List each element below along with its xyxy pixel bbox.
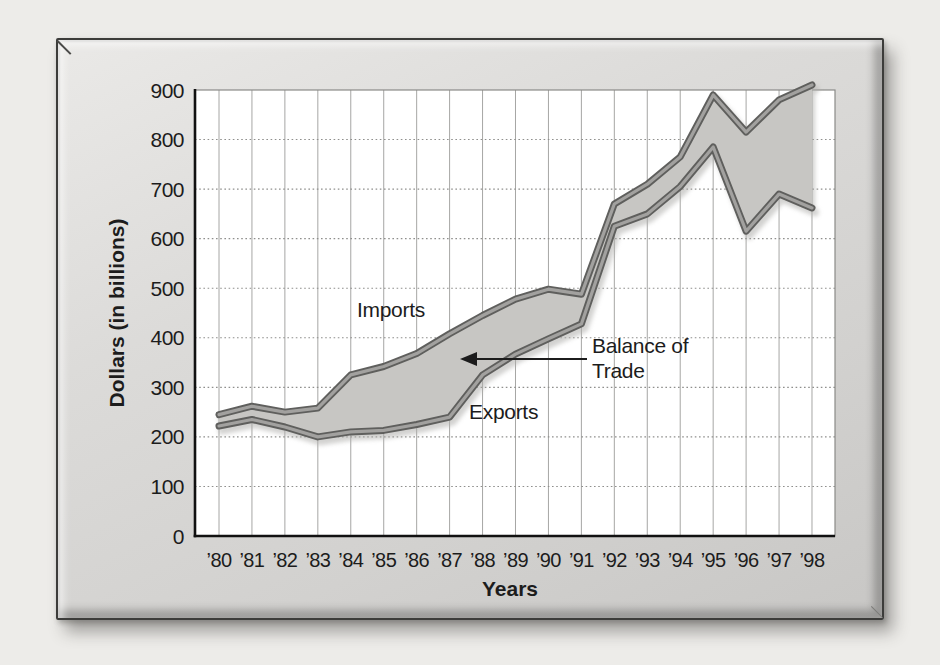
- x-tick-label: ’82: [272, 549, 297, 571]
- x-tick-label: ’83: [305, 549, 330, 571]
- exports-series-label: Exports: [469, 400, 538, 423]
- x-axis-title: Years: [482, 577, 538, 600]
- trade-balance-chart: 0100200300400500600700800900 ’80’81’82’8…: [58, 40, 886, 622]
- y-tick-label: 200: [150, 425, 184, 448]
- y-tick-label: 400: [150, 326, 184, 349]
- x-tick-label: ’91: [569, 549, 594, 571]
- balance-of-trade-label-line1: Balance of: [592, 334, 689, 357]
- x-tick-label: ’93: [635, 549, 660, 571]
- y-tick-label: 600: [150, 227, 184, 250]
- x-tick-label: ’90: [536, 549, 561, 571]
- x-tick-label: ’96: [734, 549, 759, 571]
- x-tick-label: ’94: [668, 549, 693, 571]
- x-tick-label: ’87: [437, 549, 462, 571]
- y-tick-label: 300: [150, 376, 184, 399]
- x-tick-labels: ’80’81’82’83’84’85’86’87’88’89’90’91’92’…: [207, 549, 825, 571]
- x-tick-label: ’84: [338, 549, 363, 571]
- x-tick-label: ’89: [503, 549, 528, 571]
- x-tick-label: ’80: [207, 549, 232, 571]
- y-tick-label: 900: [150, 79, 184, 102]
- y-axis-title: Dollars (in billions): [105, 218, 128, 407]
- imports-series-label: Imports: [357, 298, 425, 321]
- x-tick-label: ’85: [371, 549, 396, 571]
- x-tick-label: ’95: [701, 549, 726, 571]
- chart-frame: 0100200300400500600700800900 ’80’81’82’8…: [56, 38, 884, 620]
- y-tick-label: 800: [150, 128, 184, 151]
- x-tick-label: ’88: [470, 549, 495, 571]
- x-tick-label: ’97: [767, 549, 792, 571]
- balance-of-trade-label-line2: Trade: [592, 359, 645, 382]
- page-background: { "chart_data": { "type": "area", "title…: [0, 0, 940, 665]
- y-tick-label: 100: [150, 475, 184, 498]
- y-tick-labels: 0100200300400500600700800900: [150, 79, 184, 548]
- x-tick-label: ’81: [239, 549, 264, 571]
- y-tick-label: 500: [150, 277, 184, 300]
- x-tick-label: ’98: [800, 549, 825, 571]
- x-tick-label: ’92: [602, 549, 627, 571]
- x-tick-label: ’86: [404, 549, 429, 571]
- y-tick-label: 0: [173, 525, 184, 548]
- y-tick-label: 700: [150, 178, 184, 201]
